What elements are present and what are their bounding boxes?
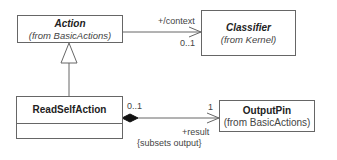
context-role-label: +/context bbox=[158, 16, 195, 26]
class-name: OutputPin bbox=[243, 105, 291, 117]
subsets-constraint-label: {subsets output} bbox=[137, 138, 202, 148]
composition-diamond-icon bbox=[122, 114, 138, 122]
class-output-pin[interactable]: OutputPin (from BasicActions) bbox=[219, 100, 315, 132]
context-multiplicity-label: 0..1 bbox=[180, 38, 195, 48]
generalization-triangle-icon bbox=[61, 43, 77, 63]
target-multiplicity-label: 1 bbox=[208, 102, 213, 112]
class-classifier[interactable]: Classifier (from Kernel) bbox=[201, 10, 296, 56]
class-package: (from BasicActions) bbox=[224, 117, 311, 128]
result-role-label: +result bbox=[182, 127, 209, 137]
class-name-compartment: ReadSelfAction bbox=[17, 97, 122, 124]
class-package: (from BasicActions) bbox=[29, 30, 111, 41]
source-multiplicity-label: 0..1 bbox=[127, 101, 142, 111]
class-action[interactable]: Action (from BasicActions) bbox=[17, 15, 123, 43]
class-name: ReadSelfAction bbox=[33, 104, 107, 116]
class-read-self-action[interactable]: ReadSelfAction bbox=[16, 96, 123, 139]
attributes-compartment bbox=[17, 124, 122, 138]
class-name: Classifier bbox=[226, 22, 271, 34]
class-package: (from Kernel) bbox=[221, 34, 276, 45]
class-name: Action bbox=[54, 18, 85, 30]
